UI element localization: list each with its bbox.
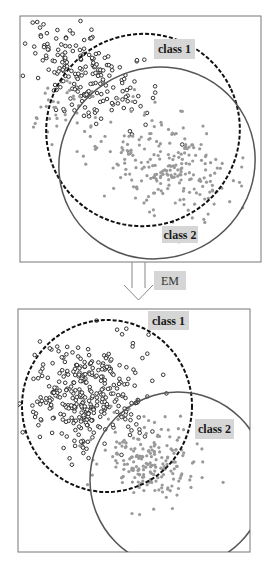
data-point bbox=[182, 451, 185, 454]
data-point bbox=[180, 472, 183, 475]
data-point bbox=[121, 89, 125, 93]
data-point bbox=[70, 416, 74, 420]
data-point bbox=[153, 85, 157, 89]
data-point bbox=[70, 69, 74, 73]
data-point bbox=[78, 366, 82, 370]
data-point bbox=[138, 473, 141, 476]
data-point bbox=[39, 105, 42, 108]
data-point bbox=[180, 153, 183, 156]
data-point bbox=[172, 452, 175, 455]
data-point bbox=[116, 102, 120, 106]
data-point bbox=[140, 179, 143, 182]
data-point bbox=[70, 103, 74, 107]
data-point bbox=[193, 187, 196, 190]
data-point bbox=[83, 365, 87, 369]
data-point bbox=[182, 126, 185, 129]
data-point bbox=[142, 473, 145, 476]
data-point bbox=[68, 29, 72, 33]
data-point bbox=[129, 413, 133, 417]
data-point bbox=[142, 201, 145, 204]
data-point bbox=[54, 37, 58, 41]
data-point bbox=[126, 99, 130, 103]
data-point bbox=[65, 353, 69, 357]
data-point bbox=[110, 108, 114, 112]
data-point bbox=[198, 193, 201, 196]
data-point bbox=[58, 396, 62, 400]
data-point bbox=[155, 140, 158, 143]
data-point bbox=[103, 382, 107, 386]
data-point bbox=[97, 368, 101, 372]
data-point bbox=[139, 443, 142, 446]
data-point bbox=[91, 394, 95, 398]
data-point bbox=[33, 415, 37, 419]
data-point bbox=[181, 454, 184, 457]
data-point bbox=[132, 491, 135, 494]
data-point bbox=[149, 470, 152, 473]
data-point bbox=[82, 155, 85, 158]
data-point bbox=[164, 415, 167, 418]
data-point bbox=[130, 512, 133, 515]
data-point bbox=[82, 114, 86, 118]
data-point bbox=[161, 483, 164, 486]
data-point bbox=[171, 132, 174, 135]
data-point bbox=[145, 432, 148, 435]
data-point bbox=[174, 461, 177, 464]
data-point bbox=[53, 71, 57, 75]
data-point bbox=[188, 171, 191, 174]
data-point bbox=[79, 420, 83, 424]
data-point bbox=[219, 167, 222, 170]
data-point bbox=[63, 360, 67, 364]
data-point bbox=[179, 415, 182, 418]
data-point bbox=[73, 98, 76, 101]
data-point bbox=[80, 74, 84, 78]
data-point bbox=[62, 375, 66, 379]
data-point bbox=[123, 162, 126, 165]
data-point bbox=[166, 187, 169, 190]
data-point bbox=[75, 363, 79, 367]
data-point bbox=[124, 417, 128, 421]
data-point bbox=[61, 418, 65, 422]
data-point bbox=[106, 387, 110, 391]
data-point bbox=[122, 459, 125, 462]
data-point bbox=[141, 356, 145, 360]
data-point bbox=[74, 428, 78, 432]
data-point bbox=[66, 91, 69, 94]
data-point bbox=[94, 116, 97, 119]
data-point bbox=[112, 392, 116, 396]
data-point bbox=[78, 48, 82, 52]
data-point bbox=[127, 135, 130, 138]
data-point bbox=[155, 458, 158, 461]
data-point bbox=[60, 356, 64, 360]
data-point bbox=[79, 440, 83, 444]
data-point bbox=[72, 82, 76, 86]
data-point bbox=[14, 383, 18, 387]
data-point bbox=[133, 476, 136, 479]
data-point bbox=[168, 156, 171, 159]
data-point bbox=[46, 48, 50, 52]
data-point bbox=[109, 150, 112, 153]
data-point bbox=[213, 203, 216, 206]
data-point bbox=[66, 79, 69, 82]
data-point bbox=[64, 118, 67, 121]
data-point bbox=[85, 447, 89, 451]
data-point bbox=[138, 138, 141, 141]
data-point bbox=[35, 20, 39, 24]
data-point bbox=[153, 421, 156, 424]
data-point bbox=[149, 137, 152, 140]
data-point bbox=[77, 425, 81, 429]
data-point bbox=[146, 483, 149, 486]
data-point bbox=[120, 415, 124, 419]
data-point bbox=[72, 421, 76, 425]
data-point bbox=[156, 435, 159, 438]
data-point bbox=[33, 353, 37, 357]
data-point bbox=[174, 201, 177, 204]
data-point bbox=[131, 345, 135, 349]
data-point bbox=[65, 435, 69, 439]
data-point bbox=[45, 105, 48, 108]
data-point bbox=[111, 455, 114, 458]
data-point bbox=[145, 199, 148, 202]
data-point bbox=[117, 418, 120, 421]
data-point bbox=[76, 346, 80, 350]
data-point bbox=[8, 30, 12, 34]
data-point bbox=[143, 426, 146, 429]
